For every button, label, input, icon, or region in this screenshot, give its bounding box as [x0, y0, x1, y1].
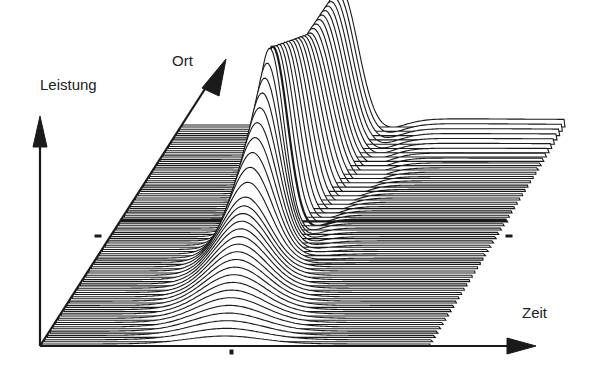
trace-row: [182, 0, 565, 127]
tick-mark-left: [95, 235, 101, 237]
position-axis-arrow-icon: [202, 59, 226, 96]
tick-mark-right: [506, 235, 512, 237]
pulse-traces: [42, 0, 565, 346]
power-axis-arrow-icon: [33, 116, 47, 147]
position-axis-label: Ort: [172, 52, 193, 69]
time-axis-arrow-icon: [507, 338, 536, 354]
trace-row: [179, 0, 562, 132]
trace-row: [177, 0, 560, 137]
waterfall-plot: [0, 0, 606, 369]
tick-mark-time: [230, 350, 233, 354]
time-axis-label: Zeit: [522, 304, 547, 321]
power-axis-label: Leistung: [40, 76, 97, 93]
